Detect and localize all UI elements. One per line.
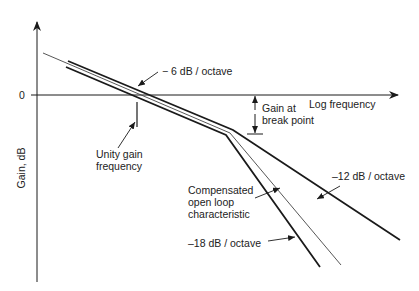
minus-18db-arrow (268, 237, 295, 241)
unity-gain-arrow (118, 122, 135, 148)
minus-6db-label: − 6 dB / octave (162, 65, 232, 77)
unity-gain-label-2: frequency (96, 160, 143, 172)
x-axis-label: Log frequency (309, 98, 376, 110)
compensated-label-3: characteristic (188, 208, 250, 220)
compensated-label-1: Compensated (188, 184, 254, 196)
gain-break-label-2: break point (262, 114, 314, 126)
minus-6db-arrow (138, 72, 158, 86)
gain-break-label-1: Gain at (262, 102, 296, 114)
minus-12db-label: –12 dB / octave (332, 170, 405, 182)
compensated-label-2: open loop (188, 196, 234, 208)
y-axis-label: Gain, dB (15, 148, 27, 189)
zero-tick-label: 0 (19, 89, 25, 101)
minus-18db-label: –18 dB / octave (188, 237, 261, 249)
bode-diagram: 0 Gain, dB Log frequency Unity gain freq… (0, 0, 419, 291)
compensated-arrow (255, 188, 280, 198)
unity-gain-label-1: Unity gain (96, 148, 143, 160)
